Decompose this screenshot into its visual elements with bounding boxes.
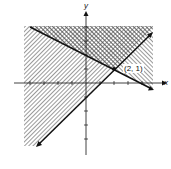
intersection-label: (2, 1) bbox=[123, 64, 144, 73]
graph-canvas bbox=[0, 0, 171, 169]
y-axis-arrow-icon bbox=[84, 11, 89, 16]
intersection-point bbox=[112, 67, 116, 71]
y-axis-label: y bbox=[84, 1, 88, 10]
x-axis-label: x bbox=[164, 78, 168, 87]
